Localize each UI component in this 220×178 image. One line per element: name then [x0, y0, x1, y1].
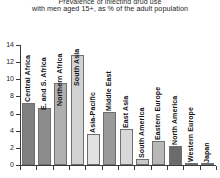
x-axis-tick — [69, 166, 70, 170]
bar — [22, 103, 35, 165]
y-axis-tick-label: 12 — [6, 57, 14, 66]
plot-area: 02468101214 Central AfricaE. and S. Afri… — [20, 45, 216, 166]
x-axis-tick — [183, 166, 184, 170]
bar — [103, 112, 116, 165]
x-axis-tick — [85, 166, 86, 170]
x-axis-tick — [200, 166, 201, 170]
y-axis-tick-label: 10 — [6, 74, 14, 83]
bar — [38, 108, 51, 165]
bar — [201, 163, 214, 165]
x-axis-tick — [20, 166, 21, 170]
y-axis-tick-label: 6 — [10, 109, 14, 118]
y-axis-tick-label: 2 — [10, 143, 14, 152]
chart-title-area: Prevalence of injecting drug use with me… — [0, 0, 220, 13]
y-axis-tick-label: 8 — [10, 91, 14, 100]
y-axis-tick-label: 14 — [6, 40, 14, 49]
bar — [169, 146, 182, 165]
bar — [120, 129, 133, 165]
bar — [185, 163, 198, 165]
x-axis-tick — [118, 166, 119, 170]
x-axis-tick — [216, 166, 217, 170]
y-axis-tick: 2 — [16, 148, 20, 149]
chart-title: with men aged 15+, as % of the adult pop… — [0, 4, 220, 13]
x-axis-tick — [53, 166, 54, 170]
y-axis-tick: 10 — [16, 79, 20, 80]
x-axis-tick — [102, 166, 103, 170]
bar — [87, 134, 100, 165]
bar — [136, 159, 149, 165]
x-axis-tick — [151, 166, 152, 170]
x-axis-tick — [167, 166, 168, 170]
y-axis-tick-label: 0 — [10, 160, 14, 169]
y-axis-tick-label: 4 — [10, 126, 14, 135]
y-axis-tick: 8 — [16, 96, 20, 97]
y-axis-tick: 12 — [16, 62, 20, 63]
x-axis-tick — [36, 166, 37, 170]
y-axis-tick: 4 — [16, 131, 20, 132]
y-axis-tick: 6 — [16, 114, 20, 115]
bar — [152, 141, 165, 165]
x-axis-tick — [134, 166, 135, 170]
y-axis-tick: 14 — [16, 45, 20, 46]
bar-chart: Prevalence of injecting drug use with me… — [0, 0, 220, 178]
